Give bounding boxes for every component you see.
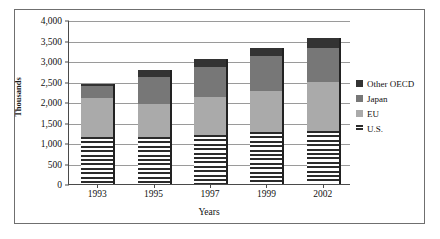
bar-segment-us[interactable] <box>138 137 170 184</box>
y-tick-label: 2,000 <box>41 98 62 108</box>
y-tick-mark <box>65 144 69 145</box>
plot-area: 05001,0001,5002,0002,5003,0003,5004,000 … <box>68 21 350 185</box>
bar-stack[interactable] <box>250 48 284 184</box>
y-axis-title: Thousands <box>13 57 23 137</box>
bar-segment-japan[interactable] <box>307 48 339 82</box>
bar-segment-japan[interactable] <box>138 77 170 104</box>
chart-legend: Other OECDJapanEUU.S. <box>356 76 434 136</box>
legend-item[interactable]: EU <box>356 106 434 121</box>
bar-stack[interactable] <box>307 38 341 184</box>
bar-stack[interactable] <box>138 70 172 184</box>
y-tick-mark <box>65 103 69 104</box>
bar-segment-eu[interactable] <box>307 82 339 131</box>
y-tick-mark <box>65 62 69 63</box>
y-tick-label: 0 <box>57 180 62 190</box>
y-tick-label: 1,500 <box>41 119 62 129</box>
bar-stack[interactable] <box>194 59 228 184</box>
legend-label: EU <box>367 109 379 119</box>
y-tick-mark <box>65 185 69 186</box>
bar-segment-other-oecd[interactable] <box>194 59 226 67</box>
y-tick-label: 1,000 <box>41 139 62 149</box>
legend-swatch-icon <box>356 80 363 87</box>
y-tick-label: 2,500 <box>41 78 62 88</box>
y-tick-label: 4,000 <box>41 16 62 26</box>
x-tick-label: 1997 <box>180 189 240 199</box>
legend-label: Japan <box>367 94 388 104</box>
bar-segment-japan[interactable] <box>194 67 226 97</box>
bar-group[interactable]: 1997 <box>194 20 226 184</box>
legend-item[interactable]: U.S. <box>356 121 434 136</box>
bar-segment-eu[interactable] <box>250 91 282 132</box>
bar-segment-japan[interactable] <box>250 56 282 91</box>
x-tick-mark <box>210 184 211 188</box>
legend-label: U.S. <box>367 124 383 134</box>
bar-segment-japan[interactable] <box>81 86 113 97</box>
bar-segment-eu[interactable] <box>138 104 170 137</box>
x-tick-label: 2002 <box>293 189 353 199</box>
legend-swatch-icon <box>356 125 363 132</box>
bar-segment-us[interactable] <box>307 131 339 184</box>
bar-segment-other-oecd[interactable] <box>250 48 282 56</box>
x-tick-label: 1995 <box>124 189 184 199</box>
chart-figure: Thousands 05001,0001,5002,0002,5003,0003… <box>0 0 440 239</box>
bar-segment-eu[interactable] <box>81 98 113 137</box>
bar-segment-eu[interactable] <box>194 97 226 135</box>
x-tick-mark <box>154 184 155 188</box>
y-tick-mark <box>65 21 69 22</box>
bar-group[interactable]: 1999 <box>250 20 282 184</box>
x-tick-label: 1993 <box>67 189 127 199</box>
y-tick-mark <box>65 82 69 83</box>
y-tick-mark <box>65 164 69 165</box>
legend-item[interactable]: Japan <box>356 91 434 106</box>
bar-segment-other-oecd[interactable] <box>81 84 113 87</box>
bar-group[interactable]: 2002 <box>307 20 339 184</box>
legend-swatch-icon <box>356 95 363 102</box>
bar-segment-other-oecd[interactable] <box>307 38 339 48</box>
bar-group[interactable]: 1995 <box>138 20 170 184</box>
bar-segment-us[interactable] <box>194 135 226 184</box>
x-axis-title: Years <box>68 207 350 217</box>
y-tick-mark <box>65 123 69 124</box>
bar-group[interactable]: 1993 <box>81 20 113 184</box>
x-tick-mark <box>266 184 267 188</box>
bar-stack[interactable] <box>81 84 115 184</box>
legend-label: Other OECD <box>367 79 414 89</box>
y-tick-mark <box>65 41 69 42</box>
x-tick-mark <box>97 184 98 188</box>
x-tick-label: 1999 <box>236 189 296 199</box>
bar-segment-us[interactable] <box>250 132 282 184</box>
y-tick-label: 3,000 <box>41 57 62 67</box>
x-tick-mark <box>323 184 324 188</box>
bar-segment-us[interactable] <box>81 137 113 184</box>
y-tick-label: 3,500 <box>41 37 62 47</box>
y-tick-label: 500 <box>48 160 62 170</box>
bar-segment-other-oecd[interactable] <box>138 70 170 77</box>
legend-swatch-icon <box>356 110 363 117</box>
legend-item[interactable]: Other OECD <box>356 76 434 91</box>
